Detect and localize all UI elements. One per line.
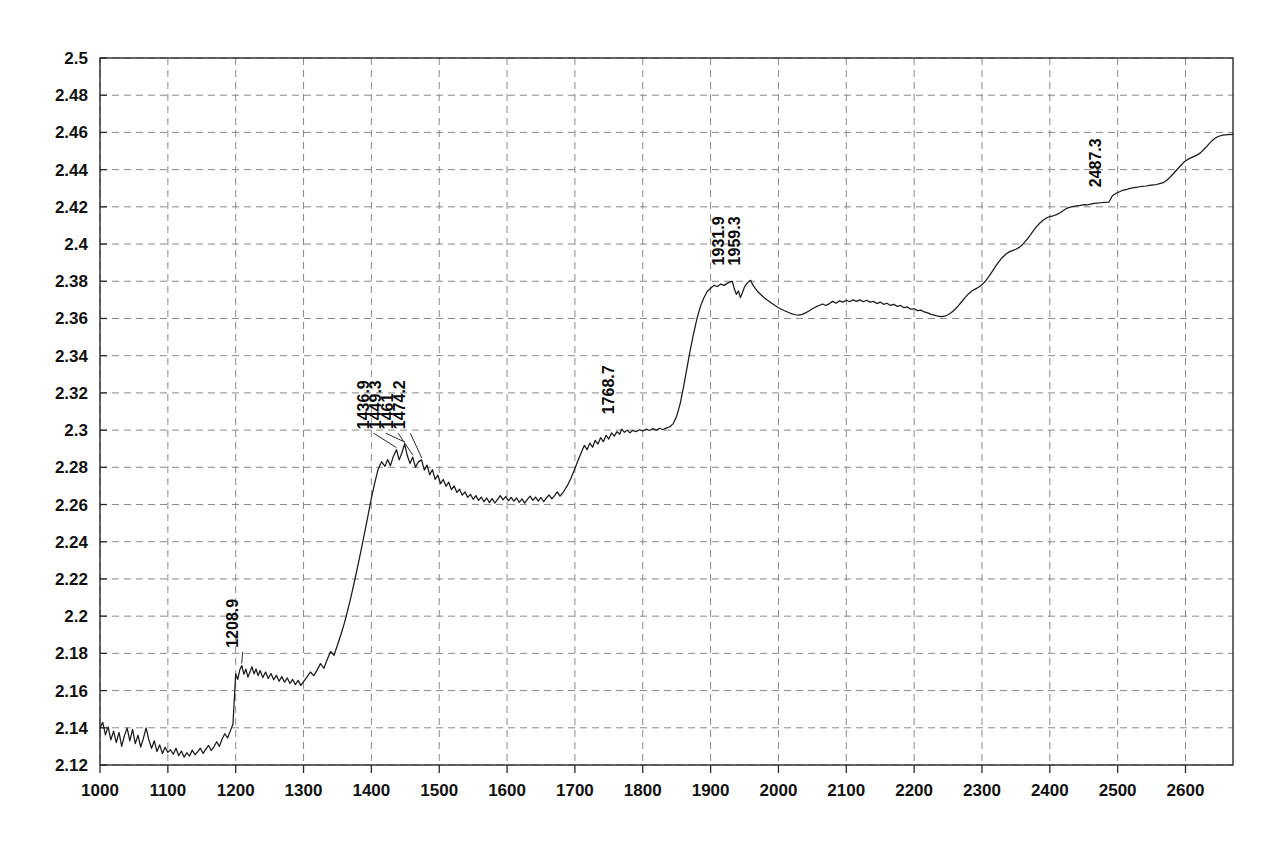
y-tick-label: 2.36	[55, 309, 88, 328]
x-tick-label: 2500	[1099, 781, 1137, 800]
y-tick-label: 2.24	[55, 533, 89, 552]
x-tick-label: 1700	[556, 781, 594, 800]
y-tick-label: 2.26	[55, 496, 88, 515]
y-tick-label: 2.28	[55, 458, 88, 477]
leader-line	[374, 433, 397, 447]
x-tick-label: 1600	[488, 781, 526, 800]
y-tick-label: 2.44	[55, 161, 89, 180]
peak-label: 1931.9	[710, 216, 727, 265]
x-tick-label: 1500	[420, 781, 458, 800]
spectrum-chart: 2.122.142.162.182.22.222.242.262.282.32.…	[0, 0, 1283, 848]
tick-marks	[100, 58, 1186, 773]
plot-frame	[100, 58, 1233, 765]
leader-line	[398, 433, 413, 455]
leader-line	[386, 433, 405, 442]
x-tick-label: 2400	[1031, 781, 1069, 800]
x-tick-label: 2000	[760, 781, 798, 800]
chart-canvas: 2.122.142.162.182.22.222.242.262.282.32.…	[0, 0, 1283, 848]
peak-annotation: 1931.9	[710, 216, 727, 265]
y-axis-tick-labels: 2.122.142.162.182.22.222.242.262.282.32.…	[55, 49, 89, 775]
y-tick-label: 2.12	[55, 756, 88, 775]
x-axis-tick-labels: 1000110012001300140015001600170018001900…	[81, 781, 1204, 800]
x-tick-label: 1300	[285, 781, 323, 800]
peak-annotation: 1474.2	[391, 380, 408, 429]
peak-label: 2487.3	[1087, 138, 1104, 187]
x-tick-label: 2300	[963, 781, 1001, 800]
x-tick-label: 1100	[149, 781, 186, 800]
y-tick-label: 2.46	[55, 123, 88, 142]
x-tick-label: 1900	[692, 781, 730, 800]
y-tick-label: 2.48	[55, 86, 88, 105]
peak-annotation: 2487.3	[1087, 138, 1104, 187]
y-tick-label: 2.16	[55, 682, 88, 701]
peak-annotations: 1208.91436.91449.314611474.21768.71931.9…	[224, 138, 1104, 648]
x-tick-label: 2100	[827, 781, 865, 800]
y-tick-label: 2.34	[55, 347, 89, 366]
peak-label: 1208.9	[224, 599, 241, 648]
peak-label: 1474.2	[391, 380, 408, 429]
x-tick-label: 2200	[895, 781, 933, 800]
x-tick-label: 1800	[624, 781, 662, 800]
peak-annotation: 1768.7	[600, 365, 617, 414]
y-tick-label: 2.2	[64, 607, 88, 626]
x-tick-label: 2600	[1167, 781, 1205, 800]
x-tick-label: 1000	[81, 781, 119, 800]
peak-annotation: 1208.9	[224, 599, 241, 648]
y-tick-label: 2.14	[55, 719, 89, 738]
x-tick-label: 1200	[217, 781, 255, 800]
x-tick-label: 1400	[352, 781, 390, 800]
spectrum-line	[100, 134, 1233, 757]
grid-lines	[100, 58, 1233, 765]
y-tick-label: 2.38	[55, 272, 88, 291]
y-tick-label: 2.4	[64, 235, 88, 254]
y-tick-label: 2.5	[64, 49, 88, 68]
y-tick-label: 2.18	[55, 644, 88, 663]
peak-label: 1768.7	[600, 365, 617, 414]
y-tick-label: 2.42	[55, 198, 88, 217]
peak-annotation: 1959.3	[726, 216, 743, 265]
y-tick-label: 2.3	[64, 421, 88, 440]
y-tick-label: 2.32	[55, 384, 88, 403]
peak-label: 1959.3	[726, 216, 743, 265]
leader-line	[242, 652, 243, 664]
y-tick-label: 2.22	[55, 570, 88, 589]
